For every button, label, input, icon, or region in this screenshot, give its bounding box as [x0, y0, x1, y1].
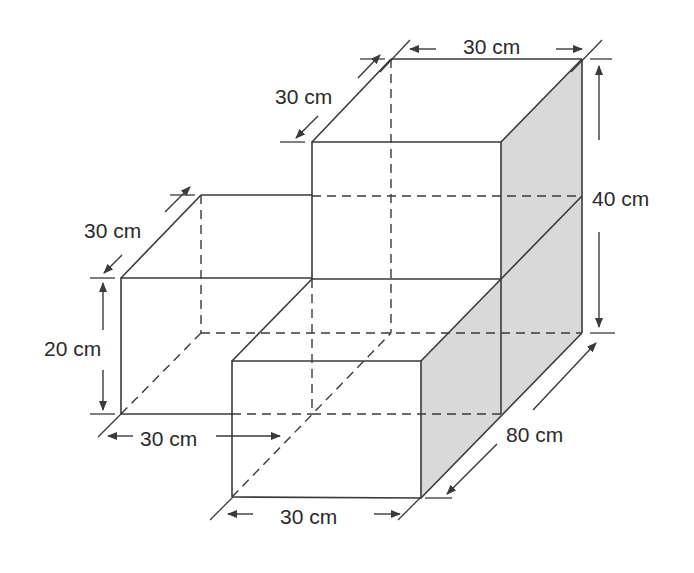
label-tall-block-depth: 30 cm [275, 86, 332, 107]
composite-solid-diagram: 30 cm 30 cm 40 cm 30 cm 20 cm 30 cm 80 c… [0, 0, 694, 573]
label-left-block-depth: 30 cm [84, 220, 141, 241]
label-left-block-height: 20 cm [44, 338, 101, 359]
label-left-block-width: 30 cm [140, 428, 197, 449]
label-total-length: 80 cm [506, 424, 563, 445]
solid-drawing [0, 0, 694, 573]
label-tall-block-width: 30 cm [463, 36, 520, 57]
label-front-block-width: 30 cm [280, 506, 337, 527]
label-total-height: 40 cm [592, 188, 649, 209]
